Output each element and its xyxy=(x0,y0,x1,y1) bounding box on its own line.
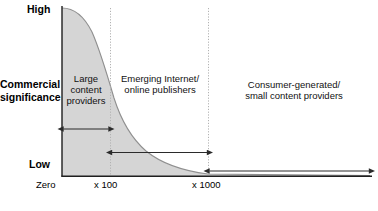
segment-label-line-3: providers xyxy=(62,95,110,106)
segment-label-line-1: Consumer-generated/ xyxy=(218,79,370,90)
y-axis-low-label: Low xyxy=(29,158,50,170)
x-axis-tick-x1000: x 1000 xyxy=(192,179,221,190)
x-axis-tick-zero: Zero xyxy=(36,179,56,190)
segment-label-line-2: content xyxy=(62,84,110,95)
segment-label-line-1: Large xyxy=(62,73,110,84)
x-axis-tick-x100: x 100 xyxy=(94,179,117,190)
long-tail-chart: High Low Commercial significance Zero x … xyxy=(0,0,378,211)
chart-canvas xyxy=(0,0,378,211)
segment-label-emerging-internet: Emerging Internet/ online publishers xyxy=(112,73,208,95)
segment-label-line-2: online publishers xyxy=(112,84,208,95)
segment-label-consumer-generated: Consumer-generated/ small content provid… xyxy=(218,79,370,101)
segment-label-large-content-providers: Large content providers xyxy=(62,73,110,107)
segment-label-line-2: small content providers xyxy=(218,90,370,101)
y-axis-high-label: High xyxy=(27,3,50,15)
y-axis-title-line-2: significance xyxy=(0,91,58,104)
y-axis-title: Commercial significance xyxy=(0,78,58,103)
y-axis-title-line-1: Commercial xyxy=(0,78,58,91)
segment-label-line-1: Emerging Internet/ xyxy=(112,73,208,84)
